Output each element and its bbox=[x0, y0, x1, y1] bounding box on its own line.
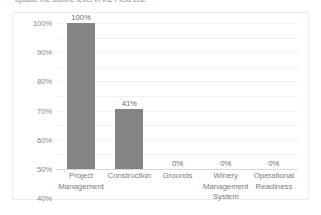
bar[interactable] bbox=[67, 23, 95, 169]
bar-column: 100% bbox=[57, 23, 105, 169]
bar-series: 100%41%0%0%0% bbox=[57, 23, 298, 169]
y-axis-tick-label: 50% bbox=[37, 165, 52, 174]
cropped-document-line: update the outline level in the Field Li… bbox=[15, 0, 147, 4]
y-axis-tick-label: 80% bbox=[37, 77, 52, 86]
bar-data-label: 41% bbox=[122, 99, 137, 108]
bar-data-label: 100% bbox=[71, 13, 91, 22]
bar-column: 0% bbox=[202, 23, 250, 169]
bar-data-label: 0% bbox=[220, 159, 231, 168]
y-axis-tick-label: 70% bbox=[37, 106, 52, 115]
y-axis-tick-label: 100% bbox=[33, 19, 52, 28]
bar-data-label: 0% bbox=[268, 159, 279, 168]
bar-data-label: 0% bbox=[172, 159, 183, 168]
y-axis-tick-label: 40% bbox=[37, 194, 52, 203]
y-axis-tick-label: 60% bbox=[37, 135, 52, 144]
document-text-strip: update the outline level in the Field Li… bbox=[0, 0, 321, 7]
x-axis-category-label: Grounds bbox=[153, 171, 201, 203]
plot-area: 100%90%80%70%60%50%40%30%20%10%0% 100%41… bbox=[57, 23, 298, 169]
bar[interactable] bbox=[115, 109, 143, 169]
bar-chart: 100%90%80%70%60%50%40%30%20%10%0% 100%41… bbox=[12, 12, 309, 200]
bar-column: 41% bbox=[105, 23, 153, 169]
y-axis-tick-label: 90% bbox=[37, 48, 52, 57]
x-axis-labels: Project ManagementConstructionGroundsWin… bbox=[57, 171, 298, 203]
bar-column: 0% bbox=[153, 23, 201, 169]
bar-column: 0% bbox=[250, 23, 298, 169]
x-axis-line: 0% bbox=[57, 169, 298, 170]
x-axis-category-label: Winery Management System bbox=[202, 171, 250, 203]
x-axis-category-label: Operational Readiness bbox=[250, 171, 298, 203]
x-axis-category-label: Project Management bbox=[57, 171, 105, 203]
x-axis-category-label: Construction bbox=[105, 171, 153, 203]
